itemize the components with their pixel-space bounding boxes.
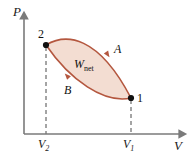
state-point-1-marker	[128, 95, 134, 101]
process-a-direction-arrow-icon	[104, 51, 112, 59]
net-work-subscript: net	[84, 64, 94, 73]
tick-label-v2-subscript: 2	[45, 144, 49, 153]
tick-label-v2: V2	[38, 138, 49, 153]
pv-diagram-canvas	[0, 0, 196, 161]
pressure-axis-label: P	[13, 5, 21, 18]
tick-label-v1: V1	[123, 138, 134, 153]
process-label-b: B	[64, 84, 71, 96]
net-work-label: Wnet	[74, 58, 94, 73]
state-label-2: 2	[38, 28, 44, 40]
net-work-symbol: W	[74, 57, 84, 71]
state-label-1: 1	[137, 92, 143, 104]
state-point-2-marker	[43, 42, 49, 48]
volume-axis-label: V	[174, 139, 182, 152]
tick-label-v1-subscript: 1	[130, 144, 134, 153]
pv-diagram-figure: P V V2 V1 2 1 A B Wnet	[0, 0, 196, 161]
process-label-a: A	[114, 43, 121, 55]
